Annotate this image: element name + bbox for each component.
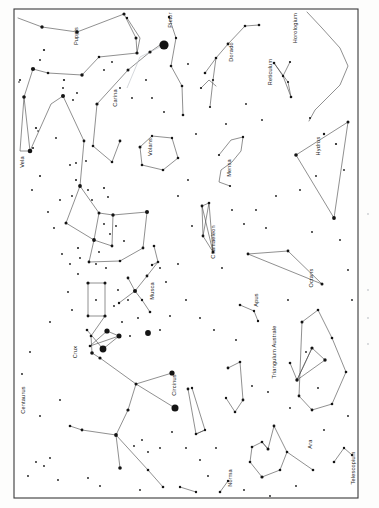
constellation-label-pictor: Pictor — [167, 12, 173, 27]
bright-star — [104, 328, 109, 333]
constellation-label-triangulum-australe: Triangulum Australe — [271, 326, 277, 379]
constellation-label-musca: Musca — [149, 282, 155, 300]
constellation-label-puppis: Puppis — [73, 27, 79, 45]
constellation-label-dorado: Dorado — [228, 42, 234, 61]
constellation-label-hydrus: Hydrus — [315, 137, 321, 156]
bright-star — [172, 405, 179, 412]
bright-star — [117, 334, 122, 339]
constellation-label-circinus: Circinus — [171, 374, 177, 396]
constellation-label-mensa: Mensa — [226, 158, 232, 176]
bright-star-canopus — [159, 40, 168, 49]
constellation-label-crux: Crux — [72, 346, 78, 359]
sky-map: PuppisCarinaVelaPictorVolansDoradoReticu… — [0, 0, 379, 508]
constellation-label-norma: Norma — [227, 468, 233, 486]
margin-specks — [367, 213, 369, 345]
constellation-label-carina: Carina — [112, 89, 118, 107]
constellation-label-chamaeleon: Chamaeleon — [210, 225, 216, 259]
constellation-label-telescopium: Telescopium — [350, 451, 356, 484]
constellation-label-octans: Octans — [308, 269, 314, 288]
constellation-label-vela: Vela — [19, 155, 25, 167]
constellation-label-reticulum: Reticulum — [267, 59, 273, 86]
bright-star — [145, 330, 151, 336]
constellation-label-apus: Apus — [253, 293, 259, 306]
chart-border — [14, 9, 358, 498]
constellation-label-volans: Volans — [147, 138, 153, 156]
star-chart-page: PuppisCarinaVelaPictorVolansDoradoReticu… — [0, 0, 379, 508]
constellation-label-centaurus: Centaurus — [20, 386, 26, 413]
bright-star — [100, 346, 107, 353]
constellation-label-ara: Ara — [307, 439, 313, 449]
constellation-label-horologium: Horologium — [292, 13, 298, 44]
